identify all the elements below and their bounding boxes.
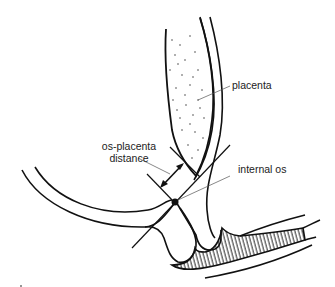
- cervix-right: [175, 200, 221, 250]
- os-placenta-distance-label: os-placenta distance: [84, 140, 174, 164]
- os-tangent-line: [147, 174, 175, 203]
- diagram-canvas: placenta os-placenta distance internal o…: [0, 0, 335, 287]
- vaginal-line-mid-ext: [305, 237, 316, 240]
- vaginal-wall-hatched: [172, 228, 305, 269]
- fetal-head-inner: [22, 170, 176, 227]
- internal-os-label: internal os: [238, 163, 286, 175]
- cervix-left: [145, 208, 196, 262]
- internal-os-leader-line: [178, 176, 230, 200]
- placenta-label: placenta: [232, 79, 272, 91]
- vaginal-line-upper-ext: [303, 220, 320, 228]
- internal-os-marker: [172, 199, 179, 206]
- os-placenta-label-line2: distance: [84, 152, 174, 164]
- os-placenta-label-line1: os-placenta: [84, 140, 174, 152]
- os-placenta-distance-arrow: [160, 163, 184, 188]
